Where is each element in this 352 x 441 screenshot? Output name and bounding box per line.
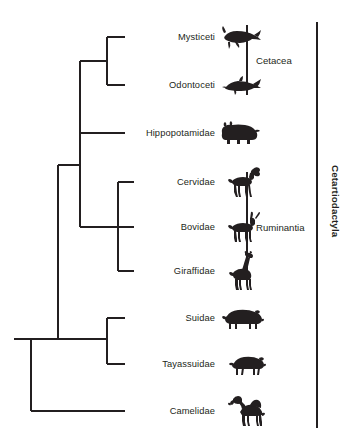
tip-label-hippopotamidae: Hippopotamidae	[146, 128, 215, 138]
camel-icon	[228, 395, 266, 427]
tip-label-tayassuidae: Tayassuidae	[162, 359, 215, 369]
tip-label-camelidae: Camelidae	[170, 406, 215, 416]
baleen-whale-icon	[218, 24, 262, 50]
pig-icon	[222, 306, 264, 330]
tip-label-giraffidae: Giraffidae	[174, 266, 215, 276]
tip-label-cervidae: Cervidae	[177, 177, 215, 187]
tip-label-mysticeti: Mysticeti	[178, 32, 215, 42]
deer-icon	[228, 166, 262, 198]
clade-label-cetartiodactyla: Cetartiodactyla	[330, 165, 341, 237]
tip-label-odontoceti: Odontoceti	[169, 80, 215, 90]
phylogenetic-tree-figure: Mysticeti Odontoceti Hippopotamidae Cerv…	[0, 0, 352, 441]
tip-label-bovidae: Bovidae	[181, 222, 215, 232]
giraffe-icon	[228, 251, 258, 291]
dolphin-icon	[222, 75, 262, 95]
clade-label-ruminantia: Ruminantia	[256, 222, 305, 233]
clade-label-cetacea: Cetacea	[256, 55, 292, 66]
antelope-icon	[228, 211, 262, 243]
peccary-icon	[228, 352, 266, 376]
tip-label-suidae: Suidae	[185, 313, 215, 323]
tree-branches	[0, 0, 352, 441]
hippopotamus-icon	[218, 120, 260, 146]
